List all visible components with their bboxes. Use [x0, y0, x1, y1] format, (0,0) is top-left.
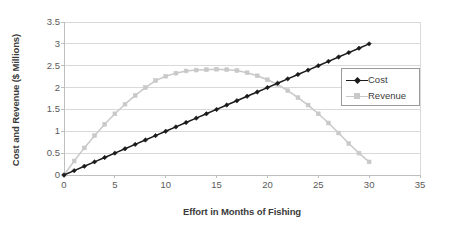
plot-area [0, 0, 455, 230]
legend-square-marker-icon [346, 90, 368, 102]
legend-item-cost: Cost [342, 72, 419, 88]
legend-label: Cost [368, 74, 388, 86]
chart-figure: Cost and Revenue ($ Millions) 00.511.522… [0, 0, 455, 230]
legend-label: Revenue [368, 90, 406, 102]
legend-item-revenue: Revenue [342, 88, 419, 104]
series-revenue [62, 67, 371, 177]
x-axis-title: Effort in Months of Fishing [64, 206, 420, 217]
chart-legend: CostRevenue [341, 68, 420, 106]
legend-diamond-marker-icon [346, 74, 368, 86]
